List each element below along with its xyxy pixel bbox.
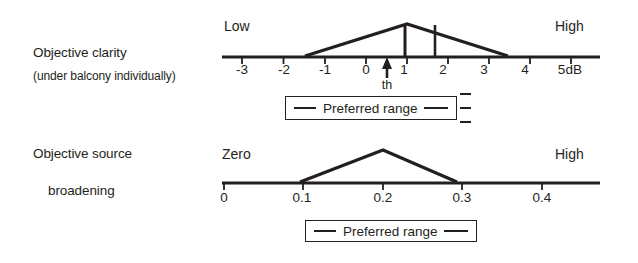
broadening-axis-group [222, 150, 600, 190]
figure-preference-scales: Objective clarity (under balcony individ… [0, 0, 638, 263]
clarity-threshold-arrow-icon [382, 57, 392, 78]
broadening-preference-triangle [300, 150, 457, 182]
chart-vector-overlay [0, 0, 638, 263]
clarity-axis-group [222, 24, 600, 78]
